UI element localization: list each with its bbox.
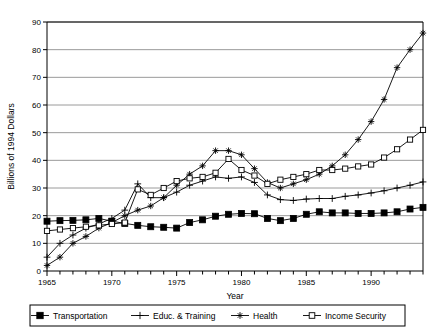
svg-text:1980: 1980 [233,278,251,287]
y-axis-title: Billions of 1994 Dollars [6,103,16,189]
svg-text:Educ. & Training: Educ. & Training [153,311,216,321]
line-chart: 0102030405060708090 19651970197519801985… [0,0,433,335]
svg-text:20: 20 [32,212,41,221]
svg-text:1975: 1975 [168,278,186,287]
svg-text:80: 80 [32,46,41,55]
svg-text:10: 10 [32,239,41,248]
chart-legend: TransportationEduc. & TrainingHealthInco… [30,305,405,326]
svg-text:1970: 1970 [103,278,121,287]
svg-text:1965: 1965 [38,278,56,287]
svg-text:1985: 1985 [297,278,315,287]
svg-text:50: 50 [32,129,41,138]
svg-text:Billions of 1994 Dollars: Billions of 1994 Dollars [6,103,16,189]
axes [47,22,423,271]
svg-text:1990: 1990 [362,278,380,287]
svg-text:0: 0 [37,267,42,276]
svg-text:90: 90 [32,18,41,27]
x-axis-title: Year [226,291,243,301]
svg-text:30: 30 [32,184,41,193]
svg-text:Income Security: Income Security [325,311,387,321]
svg-text:Transportation: Transportation [53,311,108,321]
svg-text:70: 70 [32,73,41,82]
data-series-group [44,30,427,269]
x-axis-ticks: 196519701975198019851990 [38,271,423,287]
svg-text:Year: Year [226,291,243,301]
svg-text:40: 40 [32,156,41,165]
svg-text:60: 60 [32,101,41,110]
svg-text:Health: Health [253,311,278,321]
chart-container: 0102030405060708090 19651970197519801985… [0,0,433,335]
y-axis-ticks: 0102030405060708090 [32,18,47,276]
series-health [44,30,426,269]
gridlines [47,22,423,243]
